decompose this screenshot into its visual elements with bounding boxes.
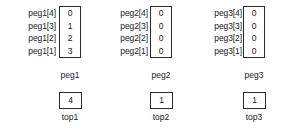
index-label: peg3[2] (194, 32, 242, 45)
top-box-peg3: 1 (243, 92, 266, 109)
hanoi-peg-state-diagram: { "diagram": { "title": "Towers of Hanoi… (0, 0, 281, 137)
index-label: peg2[4] (100, 7, 148, 20)
array-box-peg1: 0 1 2 3 (59, 6, 81, 58)
index-label: peg2[3] (100, 20, 148, 33)
array-cell: 0 (244, 20, 264, 33)
top-box-peg1: 4 (59, 92, 82, 109)
index-label: peg1[3] (8, 20, 56, 33)
array-cell: 0 (60, 7, 80, 20)
index-label-list-peg3: peg3[4] peg3[3] peg3[2] peg3[1] (194, 7, 242, 57)
array-caption-peg1: peg1 (40, 70, 100, 81)
top-caption-peg1: top1 (40, 112, 100, 123)
array-cell: 1 (60, 20, 80, 33)
array-cell: 0 (151, 32, 171, 45)
array-cell: 0 (244, 7, 264, 20)
index-label: peg3[1] (194, 45, 242, 58)
array-caption-peg2: peg2 (131, 70, 191, 81)
index-label: peg1[1] (8, 45, 56, 58)
index-label-list-peg1: peg1[4] peg1[3] peg1[2] peg1[1] (8, 7, 56, 57)
peg-group-peg1: peg1[4] peg1[3] peg1[2] peg1[1] 0 1 2 3 … (0, 0, 95, 137)
top-caption-peg3: top3 (224, 112, 281, 123)
array-cell: 3 (60, 45, 80, 58)
top-caption-peg2: top2 (131, 112, 191, 123)
index-label: peg3[4] (194, 7, 242, 20)
index-label: peg3[3] (194, 20, 242, 33)
peg-group-peg2: peg2[4] peg2[3] peg2[2] peg2[1] 0 0 0 0 … (92, 0, 187, 137)
array-caption-peg3: peg3 (224, 70, 281, 81)
array-cell: 2 (60, 32, 80, 45)
array-cell: 0 (151, 45, 171, 58)
index-label: peg1[4] (8, 7, 56, 20)
top-box-peg2: 1 (150, 92, 173, 109)
index-label: peg2[1] (100, 45, 148, 58)
peg-group-peg3: peg3[4] peg3[3] peg3[2] peg3[1] 0 0 0 0 … (184, 0, 281, 137)
array-cell: 0 (244, 45, 264, 58)
array-cell: 0 (151, 7, 171, 20)
index-label: peg1[2] (8, 32, 56, 45)
array-cell: 0 (151, 20, 171, 33)
array-box-peg2: 0 0 0 0 (150, 6, 172, 58)
array-cell: 0 (244, 32, 264, 45)
array-box-peg3: 0 0 0 0 (243, 6, 265, 58)
index-label: peg2[2] (100, 32, 148, 45)
index-label-list-peg2: peg2[4] peg2[3] peg2[2] peg2[1] (100, 7, 148, 57)
